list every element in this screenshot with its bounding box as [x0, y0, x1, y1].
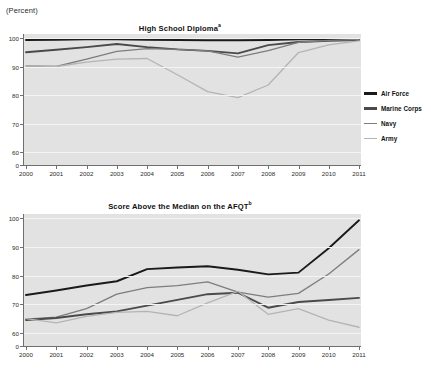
chart-title-bottom-superscript: b	[249, 200, 252, 206]
y-axis-tick	[20, 276, 24, 277]
x-axis-tick-label: 2006	[201, 351, 215, 358]
y-axis-tick-label: 70	[12, 301, 19, 308]
x-axis-tick	[26, 166, 27, 169]
legend-swatch-icon	[364, 107, 377, 110]
x-axis-tick-label: 2008	[261, 351, 275, 358]
x-axis-tick	[359, 347, 360, 350]
x-axis-tick-label: 2000	[19, 170, 33, 177]
y-axis-tick-label: 100	[9, 215, 19, 222]
y-axis-tick	[20, 38, 24, 39]
x-axis-tick	[56, 347, 57, 350]
x-axis-tick	[147, 347, 148, 350]
legend-swatch-icon	[364, 123, 377, 125]
unit-label: (Percent)	[6, 6, 38, 15]
x-axis-tick	[26, 347, 27, 350]
y-axis-tick-label: 0	[16, 162, 19, 169]
x-axis-tick-label: 2001	[49, 170, 63, 177]
gridline	[24, 124, 361, 125]
gridline	[24, 333, 361, 334]
x-axis-tick-label: 2004	[140, 170, 154, 177]
y-axis-tick	[20, 67, 24, 68]
gridline	[24, 218, 361, 219]
legend-item-label: Navy	[381, 120, 396, 127]
x-axis-tick-label: 2008	[261, 170, 275, 177]
legend-item-army[interactable]: Army	[364, 131, 431, 146]
x-axis-tick-label: 2006	[201, 170, 215, 177]
x-axis-tick-label: 2002	[80, 351, 94, 358]
x-axis-tick-label: 2003	[110, 351, 124, 358]
gridline	[24, 67, 361, 68]
gridline	[24, 304, 361, 305]
x-axis-tick-label: 2001	[49, 351, 63, 358]
x-axis-tick	[238, 347, 239, 350]
series-layer-bottom	[24, 214, 361, 347]
y-axis-tick	[20, 304, 24, 305]
y-axis-tick	[20, 95, 24, 96]
x-axis-tick	[208, 347, 209, 350]
x-axis-tick	[268, 166, 269, 169]
legend-item-marine-corps[interactable]: Marine Corps	[364, 101, 431, 116]
y-axis-tick-label: 100	[9, 35, 19, 42]
x-axis-tick-label: 2011	[352, 351, 365, 358]
x-axis-tick-label: 2000	[19, 351, 33, 358]
x-axis-tick-label: 2011	[352, 170, 365, 177]
gridline	[24, 95, 361, 96]
x-axis-tick-label: 2005	[171, 170, 185, 177]
y-axis-tick	[20, 346, 24, 347]
x-axis-tick-label: 2002	[80, 170, 94, 177]
x-axis-tick-label: 2007	[231, 170, 245, 177]
chart-title-bottom: Score Above the Median on the AFQTb	[0, 200, 360, 211]
legend-swatch-icon	[364, 92, 377, 95]
plot-area-bottom: 1009080706002000200120022003200420052006…	[24, 214, 361, 347]
chart-title-top-superscript: a	[218, 22, 221, 28]
x-axis-tick	[117, 347, 118, 350]
y-axis-tick-label: 60	[12, 330, 19, 337]
y-axis-tick-label: 90	[12, 63, 19, 70]
x-axis-tick-label: 2010	[322, 170, 336, 177]
x-axis-tick-label: 2003	[110, 170, 124, 177]
chart-title-bottom-text: Score Above the Median on the AFQT	[108, 202, 248, 211]
legend-item-navy[interactable]: Navy	[364, 116, 431, 131]
chart-panel-afqt: Score Above the Median on the AFQTb 1009…	[0, 198, 431, 371]
x-axis-tick	[87, 166, 88, 169]
y-axis-tick	[20, 152, 24, 153]
y-axis-tick-label: 90	[12, 243, 19, 250]
legend-item-air-force[interactable]: Air Force	[364, 86, 431, 101]
x-axis-tick-label: 2004	[140, 351, 154, 358]
legend-item-label: Marine Corps	[381, 105, 422, 112]
y-axis-tick	[20, 247, 24, 248]
x-axis-tick	[117, 166, 118, 169]
y-axis-tick	[20, 165, 24, 166]
x-axis-tick-label: 2009	[292, 351, 306, 358]
series-layer-top	[24, 34, 361, 166]
chart-panel-high-school-diploma: High School Diplomaa 1009080706002000200…	[0, 20, 431, 190]
series-line-navy	[26, 39, 359, 66]
chart-title-top-text: High School Diploma	[139, 24, 218, 33]
gridline	[24, 38, 361, 39]
x-axis-tick-label: 2005	[171, 351, 185, 358]
y-axis-tick-label: 80	[12, 272, 19, 279]
legend-item-label: Air Force	[381, 90, 409, 97]
x-axis-tick	[87, 347, 88, 350]
y-axis-tick-label: 60	[12, 149, 19, 156]
y-axis-tick-label: 70	[12, 120, 19, 127]
gridline	[24, 276, 361, 277]
chart-title-top: High School Diplomaa	[0, 22, 360, 33]
legend-item-label: Army	[381, 135, 397, 142]
x-axis-tick-label: 2010	[322, 351, 336, 358]
x-axis-tick	[299, 347, 300, 350]
series-line-air-force	[26, 39, 359, 40]
gridline	[24, 152, 361, 153]
x-axis-tick	[56, 166, 57, 169]
series-line-marine-corps	[26, 293, 359, 320]
plot-area-top: 1009080706002000200120022003200420052006…	[24, 34, 361, 166]
x-axis-tick	[238, 166, 239, 169]
x-axis-tick	[299, 166, 300, 169]
x-axis-tick	[147, 166, 148, 169]
x-axis-tick	[268, 347, 269, 350]
x-axis-tick	[359, 166, 360, 169]
x-axis-tick	[177, 166, 178, 169]
legend-top: Air ForceMarine CorpsNavyArmy	[364, 86, 431, 146]
y-axis-tick	[20, 124, 24, 125]
x-axis-tick	[208, 166, 209, 169]
